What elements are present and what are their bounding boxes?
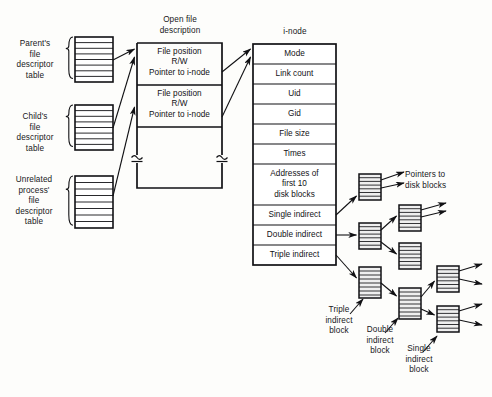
double-indirect-branch-arrows (381, 216, 397, 254)
pointer-arrows-double-child-upper (421, 203, 446, 217)
parent-file-descriptor-table (66, 37, 113, 82)
inode-indirect-arrows (336, 196, 357, 278)
unrelated-process-fd-table-label: Unrelated process' file descriptor table (4, 175, 64, 228)
single-indirect-block-label: Single indirect block (392, 344, 446, 376)
inode-field-triple-indirect: Triple indirect (254, 250, 335, 260)
pointer-arrows-grandchild-lower (459, 304, 482, 325)
open-file-description-title: Open file description (140, 15, 220, 36)
block-triple-grandchild-upper (437, 266, 459, 292)
pointers-to-disk-blocks-label: Pointers to disk blocks (405, 170, 475, 191)
pointer-arrows-grandchild-upper (459, 264, 482, 284)
ofd-entry-2: File position R/W Pointer to i-node (138, 89, 221, 120)
block-triple-grandchild-lower (437, 306, 459, 332)
inode-field-mode: Mode (254, 49, 335, 59)
block-triple-child-double (399, 288, 421, 319)
block-double-child-upper (399, 205, 421, 231)
inode-field-uid: Uid (254, 89, 335, 99)
unrelated-process-file-descriptor-table (66, 176, 113, 228)
block-triple-indirect (359, 267, 381, 298)
inode-field-direct-addresses: Addresses of first 10 disk blocks (254, 169, 335, 200)
fd-to-ofd-arrows (113, 49, 135, 196)
ofd-entry-1: File position R/W Pointer to i-node (138, 47, 221, 78)
ofd-to-inode-arrows (222, 49, 251, 117)
inode-field-gid: Gid (254, 109, 335, 119)
inode-field-link-count: Link count (254, 69, 335, 79)
parent-fd-table-label: Parent's file descriptor table (6, 39, 64, 81)
diagram-canvas (0, 0, 492, 397)
block-double-child-lower (399, 243, 421, 269)
unix-file-structures-diagram: Parent's file descriptor table Child's f… (0, 0, 492, 397)
inode-title: i-node (255, 27, 335, 38)
block-single-indirect-top (359, 174, 381, 200)
inode-field-double-indirect: Double indirect (254, 230, 335, 240)
block-double-indirect-mid (359, 223, 381, 249)
pointer-arrows-top-block (381, 172, 404, 188)
child-fd-table-label: Child's file descriptor table (6, 112, 64, 154)
triple-child-branch-arrows (421, 281, 435, 315)
inode-field-times: Times (254, 149, 335, 159)
child-file-descriptor-table (66, 105, 113, 150)
inode-field-single-indirect: Single indirect (254, 210, 335, 220)
inode-field-file-size: File size (254, 129, 335, 139)
triple-indirect-branch-arrows (381, 283, 397, 296)
